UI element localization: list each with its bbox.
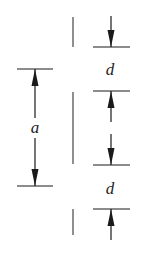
arrow-up-icon bbox=[32, 69, 39, 86]
label-d-top: d bbox=[106, 60, 115, 79]
dimension-d-bottom: d bbox=[93, 179, 130, 240]
arrow-up-icon bbox=[108, 91, 115, 108]
dimension-diagram: a d d bbox=[0, 0, 146, 254]
dimension-a: a bbox=[17, 69, 53, 186]
label-d-bottom: d bbox=[106, 179, 115, 198]
arrow-down-icon bbox=[108, 30, 115, 47]
dimension-d-top: d bbox=[93, 16, 130, 91]
arrow-down-icon bbox=[108, 148, 115, 165]
label-a: a bbox=[31, 118, 40, 137]
arrow-up-icon bbox=[108, 209, 115, 226]
dimension-middle bbox=[93, 91, 130, 165]
arrow-down-icon bbox=[32, 169, 39, 186]
